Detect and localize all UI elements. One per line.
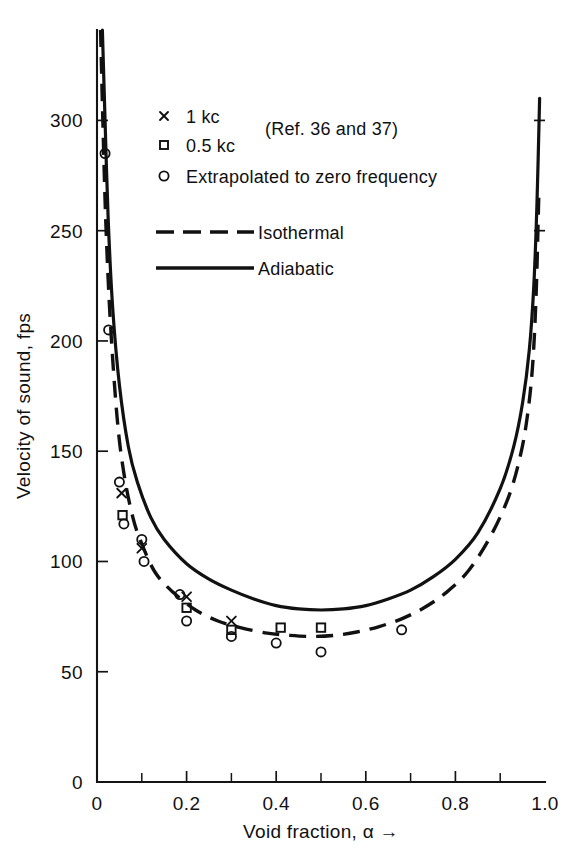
data-point-cross — [227, 617, 236, 626]
x-axis-title: Void fraction, α → — [243, 821, 399, 842]
y-ticklabel: 0 — [72, 772, 83, 793]
y-ticklabel: 200 — [50, 331, 83, 352]
circle-icon — [159, 171, 168, 180]
x-ticklabel: 0 — [92, 793, 103, 814]
legend-label-extrapolated: Extrapolated to zero frequency — [186, 167, 437, 187]
y-ticklabel: 50 — [61, 662, 83, 683]
data-point-square — [118, 511, 126, 519]
y-axis-ticklabels: 050100150200250300 — [50, 110, 83, 793]
legend-label-05kc: 0.5 kc — [186, 136, 235, 156]
x-ticklabel: 1.0 — [531, 793, 559, 814]
figure-container: 050100150200250300 00.20.40.60.81.0 Void… — [0, 0, 582, 865]
data-point-circle — [182, 616, 191, 625]
data-markers — [100, 149, 406, 657]
legend-label-1kc: 1 kc — [186, 107, 220, 127]
data-point-circle — [272, 638, 281, 647]
data-point-square — [276, 623, 284, 631]
legend-entry-05kc: 0.5 kc — [160, 136, 235, 156]
legend-entry-isothermal: Isothermal — [156, 223, 344, 243]
data-point-circle — [115, 477, 124, 486]
y-axis-title: Velocity of sound, fps — [13, 313, 34, 499]
legend-entry-1kc: 1 kc — [160, 107, 220, 127]
data-point-circle — [316, 647, 325, 656]
x-ticklabel: 0.8 — [442, 793, 470, 814]
data-point-cross — [117, 489, 126, 498]
legend-entry-adiabatic: Adiabatic — [156, 259, 334, 279]
legend-label-adiabatic: Adiabatic — [258, 259, 334, 279]
y-ticklabel: 150 — [50, 441, 83, 462]
data-point-circle — [397, 625, 406, 634]
axes — [97, 30, 545, 782]
axis-frame — [97, 30, 545, 782]
x-ticklabel: 0.4 — [262, 793, 290, 814]
data-point-square — [317, 623, 325, 631]
legend-entry-extrapolated: Extrapolated to zero frequency — [159, 167, 437, 187]
y-ticklabel: 100 — [50, 551, 83, 572]
legend: 1 kc (Ref. 36 and 37) 0.5 kc Extrapolate… — [156, 107, 437, 279]
square-icon — [160, 141, 168, 149]
y-ticklabel: 250 — [50, 221, 83, 242]
curve-adiabatic — [102, 30, 539, 610]
data-point-circle — [119, 519, 128, 528]
x-axis-ticklabels: 00.20.40.60.81.0 — [92, 793, 559, 814]
x-axis-minor-ticks — [142, 773, 500, 782]
legend-label-isothermal: Isothermal — [258, 223, 344, 243]
data-point-circle — [139, 557, 148, 566]
x-ticklabel: 0.6 — [352, 793, 380, 814]
x-ticklabel: 0.2 — [173, 793, 201, 814]
legend-reference-note: (Ref. 36 and 37) — [265, 119, 398, 139]
y-ticklabel: 300 — [50, 110, 83, 131]
cross-icon — [160, 112, 168, 120]
chart-svg: 050100150200250300 00.20.40.60.81.0 Void… — [0, 0, 582, 865]
